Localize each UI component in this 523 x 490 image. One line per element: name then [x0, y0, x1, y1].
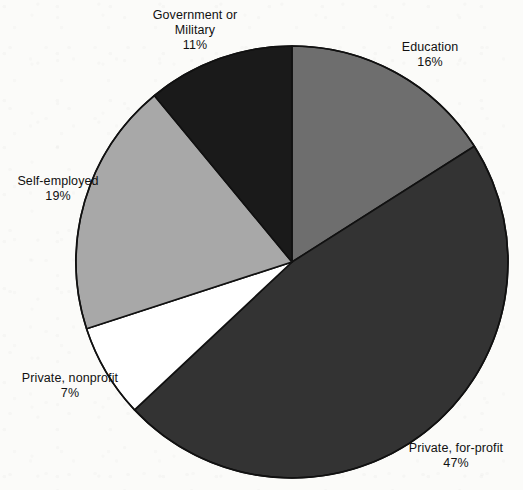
pie-label-self-employed-percent: 19%: [2, 189, 114, 204]
pie-label-private-for-profit-percent: 47%: [392, 456, 520, 471]
pie-label-private-nonprofit-percent: 7%: [6, 386, 134, 401]
pie-label-government-or-military: Government or Military 11%: [128, 8, 262, 53]
pie-label-education: Education 16%: [368, 40, 492, 70]
pie-label-private-nonprofit-name: Private, nonprofit: [6, 371, 134, 386]
pie-slice-group: [76, 46, 508, 478]
pie-label-private-for-profit: Private, for-profit 47%: [392, 441, 520, 471]
pie-label-self-employed: Self-employed 19%: [2, 174, 114, 204]
pie-label-private-for-profit-name: Private, for-profit: [392, 441, 520, 456]
pie-chart-canvas: [0, 0, 523, 490]
pie-label-government-line2: Military: [128, 23, 262, 38]
pie-label-private-nonprofit: Private, nonprofit 7%: [6, 371, 134, 401]
pie-label-government-percent: 11%: [128, 38, 262, 53]
pie-label-government-line1: Government or: [128, 8, 262, 23]
pie-chart: Government or Military 11% Education 16%…: [0, 0, 523, 490]
pie-label-education-name: Education: [368, 40, 492, 55]
pie-label-education-percent: 16%: [368, 55, 492, 70]
pie-label-self-employed-name: Self-employed: [2, 174, 114, 189]
